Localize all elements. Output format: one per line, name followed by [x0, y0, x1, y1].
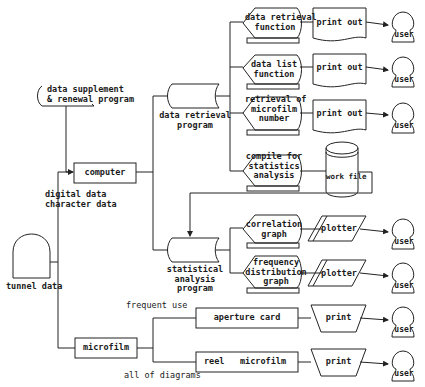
data-retrieval-program-label: data retrieval program [150, 111, 240, 130]
data-retrieval-function: data retrieval function [245, 13, 305, 32]
statistical-analysis-program-label: statistical analysis program [150, 265, 240, 294]
frequency-distribution-graph: frequency distribution graph [245, 258, 307, 287]
user-label-3: user [393, 121, 415, 131]
user-label-1: user [393, 30, 415, 40]
user-label-4: user [393, 237, 415, 247]
frequent-use-label: frequent use [126, 301, 187, 311]
user-label-6: user [393, 325, 415, 335]
data-supplement-program: data supplement & renewal program [47, 85, 134, 104]
user-label-7: user [393, 369, 415, 379]
plotter-1: plotter [315, 224, 363, 234]
print-1: print [311, 313, 366, 323]
work-file: work file [326, 172, 358, 182]
print-out-3: print out [313, 109, 366, 119]
reel-microfilm-label: microfilm [240, 357, 286, 367]
print-2: print [311, 357, 366, 367]
tunnel-data-label: tunnel data [6, 282, 62, 292]
retrieval-microfilm-number: retrieval of microfilm number [245, 95, 303, 124]
all-of-diagrams-label: all of diagrams [124, 371, 201, 381]
user-label-5: user [393, 281, 415, 291]
computer-box: computer [74, 168, 136, 178]
compile-statistics-analysis: compile for statistics analysis [245, 152, 303, 181]
microfilm-box: microfilm [75, 343, 137, 353]
print-out-2: print out [313, 63, 366, 73]
aperture-card-box: aperture card [196, 313, 298, 323]
user-label-2: user [393, 75, 415, 85]
plotter-2: plotter [315, 269, 363, 279]
print-out-1: print out [313, 18, 366, 28]
digital-data-label: digital data character data [45, 190, 117, 209]
correlation-graph: correlation graph [245, 220, 303, 239]
reel-label: reel [204, 357, 224, 367]
data-list-function: data list function [245, 60, 303, 79]
